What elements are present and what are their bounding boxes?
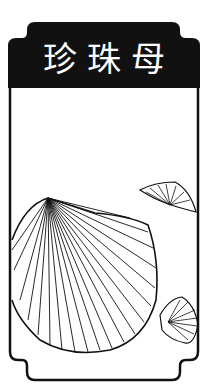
- herb-card: 珍珠母: [0, 0, 207, 392]
- card-title: 珍珠母: [8, 30, 200, 82]
